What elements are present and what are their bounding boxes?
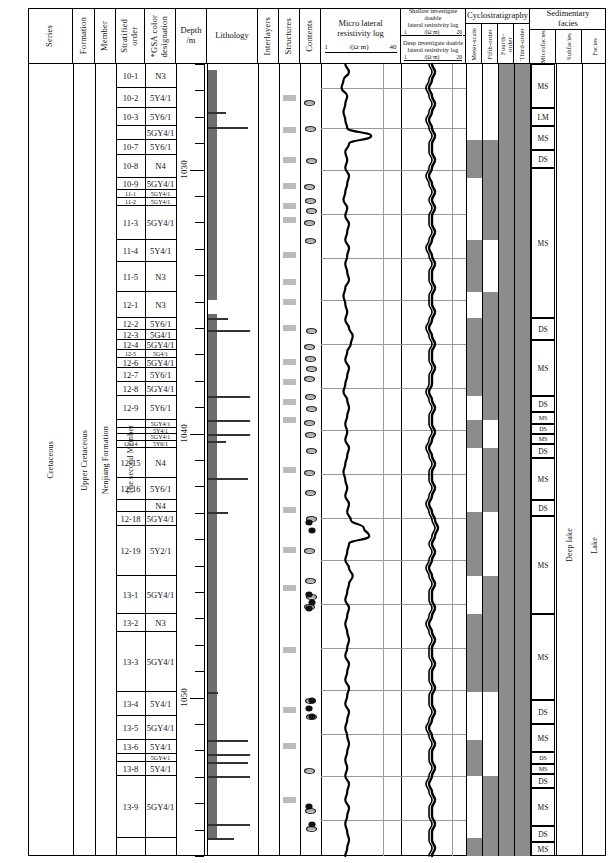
ostracod-fossil-icon	[308, 814, 316, 821]
fifth-order-bar	[483, 512, 498, 576]
lamination-icon	[283, 292, 296, 299]
bed-order	[116, 434, 145, 441]
lamination-icon	[283, 736, 296, 743]
depth-tick	[190, 170, 204, 171]
lamination-icon	[283, 210, 296, 217]
bed-order: 12-2	[116, 318, 145, 330]
bed-order: 12-7	[116, 368, 145, 382]
depth-tick	[195, 618, 204, 619]
microfacies-box: DS	[531, 424, 555, 434]
meter-scale-bar	[467, 448, 482, 512]
depth-tick	[195, 486, 204, 487]
header-fifth-order: Fifth-order	[482, 24, 498, 64]
depth-tick	[195, 671, 204, 672]
lamination-icon	[283, 272, 296, 279]
bed-gsa-color: 5GY4/1	[145, 190, 176, 198]
meter-scale-bar	[467, 318, 482, 396]
microfacies-box: MS	[531, 788, 555, 826]
log-gridline	[321, 776, 466, 777]
depth-tick	[195, 222, 204, 223]
bed-gsa-color: 5GY4/1	[145, 178, 176, 190]
bed-gsa-color: 5GY4/1	[145, 754, 176, 762]
lamination-icon	[283, 540, 296, 547]
depth-tick	[195, 407, 204, 408]
bed-gsa-color: 5G4/1	[145, 330, 176, 340]
bed-order: 12-16	[116, 478, 145, 500]
log-gridline	[321, 734, 466, 735]
bed-gsa-color: 5GY4/1	[145, 126, 176, 140]
depth-tick	[195, 196, 204, 197]
lithology-bed-line	[208, 478, 248, 480]
bed-gsa-color: 5Y6/1	[145, 396, 176, 420]
bed-order: 12-14	[116, 441, 145, 448]
bed-order: 11-4	[116, 240, 145, 262]
bed-order: 12-4	[116, 340, 145, 350]
microfacies-box: DS	[531, 700, 555, 724]
header-contents: Contents	[300, 8, 321, 64]
lithology-bed-line	[208, 512, 228, 514]
depth-tick	[195, 354, 204, 355]
bed-order	[116, 126, 145, 140]
fifth-order-bar	[483, 64, 498, 140]
microfacies-box: DS	[531, 396, 555, 412]
lithology-bed-line	[208, 127, 248, 129]
header-gsa-color: *GSA color designation	[145, 8, 176, 64]
bed-order: 12-8	[116, 382, 145, 396]
shell-fossil-icon	[305, 570, 316, 576]
depth-tick	[195, 856, 204, 857]
series-label-cell: Cretaceous	[28, 64, 73, 856]
depth-tick	[195, 143, 204, 144]
bed-gsa-color: N3	[145, 292, 176, 318]
microfacies-box: DS	[531, 826, 555, 842]
lamination-icon	[283, 88, 296, 95]
lamination-icon	[283, 150, 296, 157]
header-formation: Formation	[73, 8, 95, 64]
bed-order: 13-1	[116, 576, 145, 614]
lithology-bed-line	[208, 330, 250, 332]
bed-gsa-color: 5G4/1	[145, 350, 176, 358]
microfacies-box: MS	[531, 842, 555, 856]
log-gridline	[321, 344, 466, 345]
lithology-bed-line	[208, 396, 250, 398]
shell-fossil-icon	[305, 348, 316, 354]
bed-order: 12-19	[116, 526, 145, 576]
log-gridline	[321, 128, 466, 129]
lamination-icon	[283, 410, 296, 417]
fifth-order-bar	[483, 692, 498, 776]
depth-tick	[195, 566, 204, 567]
shell-fossil-icon	[306, 398, 317, 404]
bed-order: 10-8	[116, 155, 145, 178]
microfacies-box: MS	[531, 412, 555, 424]
meter-scale-bar	[467, 692, 482, 740]
lithology-bed-line	[208, 420, 250, 422]
fourth-order-bar	[499, 64, 514, 856]
bed-gsa-color: 5Y6/1	[145, 368, 176, 382]
depth-tick	[195, 513, 204, 514]
shell-fossil-icon	[304, 462, 315, 468]
bed-gsa-color: N4	[145, 448, 176, 478]
lamination-icon	[283, 790, 296, 797]
shallow-max: 20	[456, 29, 462, 35]
fifth-order-bar	[483, 240, 498, 292]
fifth-order-bar	[483, 318, 498, 420]
header-interlayers: Interlayers	[258, 8, 279, 64]
shell-fossil-icon	[304, 336, 315, 342]
bed-order: 10-9	[116, 178, 145, 190]
microfacies-box: MS	[531, 516, 555, 614]
deep-unit: /(Ω·m)	[424, 54, 439, 60]
bed-order: 11-2	[116, 198, 145, 206]
meter-scale-bar	[467, 140, 482, 178]
depth-tick	[195, 328, 204, 329]
third-order-bar	[515, 64, 530, 856]
depth-tick	[195, 90, 204, 91]
meter-scale-bar	[467, 512, 482, 576]
depth-tick	[195, 249, 204, 250]
bed-gsa-color: 5Y6/1	[145, 441, 176, 448]
microfacies-box: MS	[531, 168, 555, 318]
header-sedimentary-facies: Sedimentary facies	[530, 8, 606, 30]
bed-order	[116, 754, 145, 762]
fifth-order-bar	[483, 140, 498, 178]
microfacies-box: MS	[531, 614, 555, 700]
depth-tick	[195, 724, 204, 725]
log-gridline	[321, 820, 466, 821]
